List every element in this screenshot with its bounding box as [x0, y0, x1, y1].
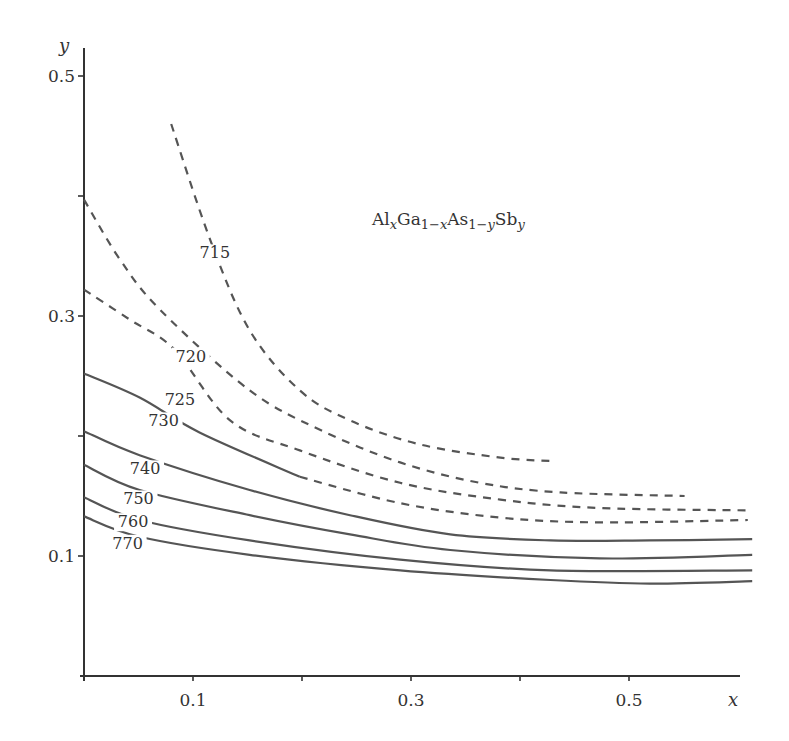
contour-label-740: 740 — [130, 459, 161, 478]
contour-line-770 — [84, 516, 752, 583]
y-tick-label: 0.1 — [48, 546, 75, 566]
x-tick-label: 0.3 — [397, 690, 424, 710]
contour-label-715: 715 — [200, 243, 231, 262]
x-axis-label: x — [728, 689, 738, 710]
axes: 0.10.30.50.10.30.5xy — [48, 35, 740, 710]
y-axis-label: y — [58, 35, 70, 56]
y-tick-label: 0.5 — [48, 66, 75, 86]
contour-chart: 0.10.30.50.10.30.5xy 7157207257307407507… — [0, 0, 789, 741]
contour-label-730: 730 — [148, 411, 179, 430]
y-tick-label: 0.3 — [48, 306, 75, 326]
contour-label-770: 770 — [112, 534, 143, 553]
contour-line-715 — [171, 124, 554, 461]
chart-title: AlxGa1−xAs1−ySby — [371, 209, 525, 232]
x-tick-label: 0.1 — [179, 690, 206, 710]
contour-line-740 — [84, 431, 752, 541]
contour-label-760: 760 — [118, 512, 149, 531]
contour-line-730 — [300, 477, 748, 523]
contour-label-725: 725 — [165, 390, 196, 409]
contour-label-750: 750 — [123, 489, 154, 508]
contour-labels: 715720725730740750760770 — [109, 243, 234, 552]
x-tick-label: 0.5 — [615, 690, 642, 710]
contour-label-720: 720 — [176, 347, 207, 366]
